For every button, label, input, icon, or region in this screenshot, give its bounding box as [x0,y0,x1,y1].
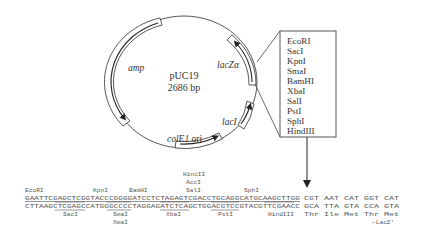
psti-label: PstI [218,211,233,218]
hincii-label: HincII [183,171,206,178]
bottom-restriction-labels: SacI SmaI XmaI XbaI PstI HindIII Thr Ile… [63,211,399,226]
callout-line-top [257,31,280,62]
amino-acids: Thr Ile Met Thr Met [304,211,399,218]
callout-line-bottom [255,84,280,137]
mcs-site: SmaI [287,66,306,76]
bottom-strand: CTTAAGCTCGAGCCATGGGCCCCTAGGAGATCTCAGCTGG… [25,203,300,210]
mcs-site: KpnI [287,56,306,66]
laci-label: lacI [222,117,238,127]
mcs-site: SacI [287,46,303,56]
cole1-ori-label: colE1 ori [167,134,202,144]
mcs-site: BamHI [287,76,314,86]
mcs-site: SalI [287,96,302,106]
mcs-site: HindIII [287,126,315,136]
dna-sequence: GAATTCGAGCTCGGTACCCGGGGATCCTCTAGAGTCGACC… [25,195,399,210]
plasmid-name: pUC19 [170,70,199,81]
kpni-label: KpnI [93,187,108,194]
mcs-site: EcoRI [287,36,310,46]
top-strand: GAATTCGAGCTCGGTACCCGGGGATCCTCTAGAGTCGACC… [25,195,300,202]
mcs-site: XbaI [287,86,305,96]
xbai-label: XbaI [166,211,181,218]
lacz-prime-label: ←LacZ' [372,219,394,226]
sali-label: SalI [186,187,201,194]
mcs-site: PstI [287,106,301,116]
top-codons: CGT AAT CAT GGT CAT [304,195,399,202]
sphi-label: SphI [244,187,259,194]
smai-label: SmaI [113,211,128,218]
plasmid-size: 2686 bp [168,82,201,93]
acci-label: AccI [186,179,201,186]
mcs-restriction-site-box: EcoRI SacI KpnI SmaI BamHI XbaI SalI Pst… [280,31,336,137]
top-restriction-labels: EcoRI KpnI BamHI HincII AccI SalI SphI [25,171,259,194]
pUC19-plasmid-map: pUC19 2686 bp amp lacZα lacI colE1 ori E… [0,0,423,236]
laci-gene-arrow [238,101,254,129]
bamhi-label: BamHI [129,187,148,194]
xmai-label: XmaI [113,219,128,226]
mcs-site: SphI [287,116,304,126]
ecori-label: EcoRI [25,187,44,194]
hindiii-label: HindIII [268,211,294,218]
saci-label: SacI [63,211,78,218]
bottom-codons: GCA TTA GTA CCA GTA [304,203,399,210]
lacz-alpha-label: lacZα [217,60,240,70]
amp-label: amp [128,63,145,73]
